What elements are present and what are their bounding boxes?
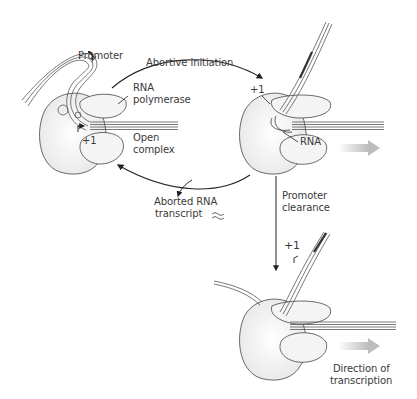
open-complex-label-line2: complex bbox=[133, 144, 175, 156]
return-arrow bbox=[118, 165, 250, 189]
abortive-initiation-polymerase bbox=[240, 22, 384, 174]
abortive-initiation-label: Abortive initiation bbox=[146, 57, 233, 69]
promoter-clearance-label-line1: Promoter bbox=[282, 190, 327, 202]
rna-label: RNA bbox=[300, 136, 321, 148]
rna-polymerase-label-line1: RNA bbox=[133, 82, 154, 94]
direction-label-line1: Direction of bbox=[333, 363, 390, 375]
promoter-label: Promoter bbox=[78, 50, 123, 62]
plus-one-bottom-label: +1 bbox=[284, 240, 300, 252]
plus-one-right-label: +1 bbox=[250, 84, 265, 96]
aborted-transcript-squiggle bbox=[212, 213, 224, 220]
aborted-rna-label-line2: transcript bbox=[155, 208, 202, 220]
rna-polymerase-label-line2: polymerase bbox=[133, 94, 191, 106]
promoter-clearance-polymerase bbox=[214, 232, 396, 380]
plus-one-left-label: +1 bbox=[82, 135, 97, 147]
promoter-clearance-label-line2: clearance bbox=[282, 202, 330, 214]
aborted-rna-label-line1: Aborted RNA bbox=[154, 196, 217, 208]
open-complex-label-line1: Open bbox=[133, 132, 159, 144]
direction-label-line2: transcription bbox=[330, 375, 392, 387]
